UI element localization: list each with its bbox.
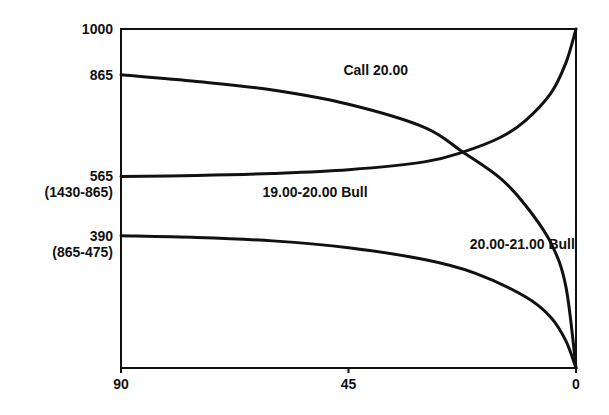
x-tick-label: 45 — [341, 376, 357, 392]
x-axis-ticks: 90450 — [113, 368, 580, 392]
x-tick-label: 0 — [572, 376, 580, 392]
y-tick-sublabel: (1430-865) — [45, 184, 114, 200]
y-tick-sublabel: (865-475) — [52, 244, 113, 260]
chart: 1000865565(1430-865)390(865-475) 90450 C… — [0, 0, 609, 415]
y-tick-label: 565 — [90, 168, 114, 184]
y-tick-label: 1000 — [82, 21, 113, 37]
y-tick-label: 390 — [90, 228, 114, 244]
series-label: 19.00-20.00 Bull — [263, 184, 368, 200]
x-tick-label: 90 — [113, 376, 129, 392]
series-label: 20.00-21.00 Bull — [470, 236, 575, 252]
series-curve — [121, 236, 576, 368]
series-labels: Call 20.0019.00-20.00 Bull20.00-21.00 Bu… — [263, 62, 575, 253]
y-tick-label: 865 — [90, 67, 114, 83]
series-curve — [121, 75, 576, 368]
y-axis-ticks: 1000865565(1430-865)390(865-475) — [45, 21, 114, 260]
series-label: Call 20.00 — [343, 62, 408, 78]
